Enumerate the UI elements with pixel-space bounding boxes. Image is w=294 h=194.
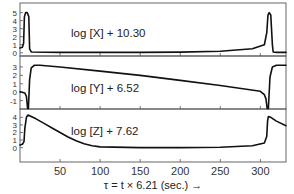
panel-label-x: log [X] + 10.30 <box>71 27 146 39</box>
x-tick-label: 50 <box>54 165 66 177</box>
y-tick-label: 2 <box>13 33 18 42</box>
y-tick-label: 3 <box>13 63 18 72</box>
y-tick-label: 3 <box>13 25 18 34</box>
y-tick-label: 5 <box>13 9 18 18</box>
panel-label-y: log [Y] + 6.52 <box>71 82 139 94</box>
x-tick-label: 150 <box>131 165 149 177</box>
y-tick-label: 1 <box>13 41 18 50</box>
panel-y-frame <box>20 56 286 109</box>
y-tick-label: 2 <box>13 71 18 80</box>
x-tick-label: 100 <box>91 165 109 177</box>
x-tick-label: 250 <box>211 165 229 177</box>
y-axis-ticks: 012345-1012301234 <box>10 9 23 153</box>
x-tick-label: 200 <box>171 165 189 177</box>
y-tick-label: 1 <box>13 80 18 89</box>
chart: 012345-1012301234 log [X] + 10.30 log [Y… <box>0 0 294 194</box>
panel-label-z: log [Z] + 7.62 <box>71 125 138 137</box>
y-tick-label: -1 <box>10 97 18 106</box>
curve-y <box>20 65 286 108</box>
curve-x <box>20 13 286 53</box>
y-tick-label: 0 <box>13 88 18 97</box>
panel-z-frame <box>20 109 286 162</box>
curve-z <box>20 115 286 148</box>
panel-x-frame <box>20 3 286 56</box>
x-axis-tick-labels: 50100150200250300 <box>54 165 270 177</box>
y-tick-label: 4 <box>13 113 18 122</box>
x-tick-label: 300 <box>251 165 269 177</box>
x-axis-label: τ = t × 6.21 (sec.) → <box>104 179 203 191</box>
y-tick-label: 0 <box>13 49 18 58</box>
y-tick-label: 4 <box>13 17 18 26</box>
